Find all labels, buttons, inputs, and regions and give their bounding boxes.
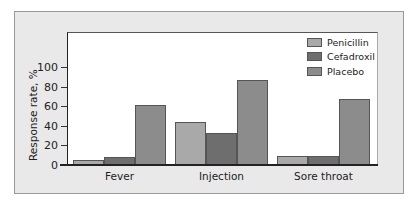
legend-item-penicillin: Penicillin [307, 37, 369, 48]
y-tick-20 [61, 145, 67, 146]
legend-swatch-penicillin [307, 38, 322, 47]
y-tick-100 [61, 67, 67, 68]
x-axis [60, 164, 378, 166]
legend-label: Cefadroxil [327, 51, 375, 62]
legend-item-placebo: Placebo [307, 66, 364, 77]
bar-injection-placebo [237, 80, 268, 165]
legend-swatch-cefadroxil [307, 52, 322, 61]
bar-injection-penicillin [175, 122, 206, 165]
y-tick-40 [61, 126, 67, 127]
y-tick-label: 60 [36, 101, 58, 112]
y-tick-label: 20 [36, 140, 58, 151]
legend-label: Penicillin [327, 37, 369, 48]
bar-sore-throat-placebo [339, 99, 370, 165]
legend-label: Placebo [327, 66, 364, 77]
y-tick-label: 0 [36, 160, 58, 171]
category-label-injection: Injection [175, 170, 268, 182]
legend-swatch-placebo [307, 67, 322, 76]
y-tick-60 [61, 106, 67, 107]
bar-fever-placebo [135, 105, 166, 165]
y-tick-80 [61, 87, 67, 88]
y-tick-label: 40 [36, 121, 58, 132]
legend-item-cefadroxil: Cefadroxil [307, 51, 375, 62]
y-tick-label: 100 [36, 62, 58, 73]
category-label-fever: Fever [73, 170, 166, 182]
category-label-sore-throat: Sore throat [277, 170, 370, 182]
y-tick-label: 80 [36, 82, 58, 93]
bar-injection-cefadroxil [206, 133, 237, 165]
